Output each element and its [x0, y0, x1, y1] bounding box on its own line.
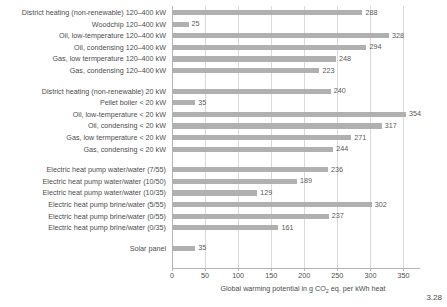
x-tick-label-300: 300 — [364, 272, 376, 279]
category-label: Oil, low-temperature < 20 kW — [73, 111, 166, 118]
plot-area: 2882532829424822324035354317271244236189… — [172, 6, 420, 268]
category-axis-labels: District heating (non-renewable) 120–400… — [0, 6, 170, 268]
bar-value-label: 271 — [351, 134, 366, 141]
x-tick-label-150: 150 — [265, 272, 277, 279]
bar-row: 129 — [172, 190, 420, 195]
bar-row: 25 — [172, 22, 420, 27]
bar — [172, 45, 366, 50]
bar-value-label: 294 — [366, 44, 381, 51]
bar-value-label: 302 — [372, 201, 387, 208]
bar-row: 271 — [172, 135, 420, 140]
x-axis-title-subscript: 2 — [326, 288, 329, 294]
bar-row: 223 — [172, 68, 420, 73]
bar — [172, 10, 362, 15]
category-label: Electric heat pump water/water (10/50) — [43, 178, 166, 185]
bar-row: 240 — [172, 89, 420, 94]
figure-global-warming-potential: District heating (non-renewable) 120–400… — [0, 0, 447, 307]
category-label: Gas, low termperature < 20 kW — [66, 134, 166, 141]
x-axis-title: Global warming potential in g CO2 eq. pe… — [172, 285, 434, 292]
bar — [172, 225, 278, 230]
bar-value-label: 354 — [406, 111, 421, 118]
bar-row: 189 — [172, 179, 420, 184]
x-tick-label-0: 0 — [170, 272, 174, 279]
bar-row: 244 — [172, 147, 420, 152]
bar — [172, 112, 406, 117]
x-axis-title-before: Global warming potential in g CO — [220, 284, 325, 293]
bar-value-label: 35 — [195, 99, 206, 106]
bar-row: 317 — [172, 123, 420, 128]
bar-row: 35 — [172, 100, 420, 105]
bar — [172, 89, 331, 94]
x-tick-label-200: 200 — [298, 272, 310, 279]
bar — [172, 100, 195, 105]
category-label: District heating (non-renewable) 20 kW — [42, 88, 166, 95]
bar-row: 236 — [172, 167, 420, 172]
bar-row: 248 — [172, 56, 420, 61]
category-label: Gas, condensing 120–400 kW — [70, 67, 166, 74]
bar — [172, 246, 195, 251]
bar — [172, 147, 333, 152]
bar-value-label: 237 — [329, 213, 344, 220]
bar — [172, 202, 372, 207]
category-label: Electric heat pump brine/water (0/35) — [48, 224, 166, 231]
bar — [172, 56, 336, 61]
bar-value-label: 244 — [333, 146, 348, 153]
bar-row: 35 — [172, 246, 420, 251]
category-label: Oil, low-temperature 120–400 kW — [59, 32, 166, 39]
bar-row: 328 — [172, 33, 420, 38]
bar-value-label: 288 — [362, 9, 377, 16]
category-label: Woodchip 120–400 kW — [92, 21, 166, 28]
bar — [172, 123, 382, 128]
category-label: Solar panel — [130, 245, 166, 252]
category-label: Gas, low termperature 120–400 kW — [53, 55, 166, 62]
bar — [172, 135, 351, 140]
bar-row: 237 — [172, 214, 420, 219]
figure-number: 3.28 — [426, 294, 442, 302]
bar-row: 288 — [172, 10, 420, 15]
bar — [172, 190, 257, 195]
bar — [172, 22, 189, 27]
category-label: Gas, condensing < 20 kW — [83, 146, 166, 153]
bar-row: 161 — [172, 225, 420, 230]
category-label: Oil, condensing 120–400 kW — [74, 44, 166, 51]
bar — [172, 179, 297, 184]
x-axis-title-after: eq. per kWh heat — [329, 284, 386, 293]
bar-row: 302 — [172, 202, 420, 207]
bar-value-label: 236 — [328, 166, 343, 173]
x-axis-ticks: 050100150200250300350 — [172, 268, 420, 282]
bar-value-label: 25 — [189, 21, 200, 28]
bar-value-label: 35 — [195, 245, 206, 252]
category-label: Oil, condensing < 20 kW — [88, 122, 166, 129]
x-tick-label-250: 250 — [331, 272, 343, 279]
bar — [172, 167, 328, 172]
bar-row: 294 — [172, 45, 420, 50]
x-tick-label-100: 100 — [232, 272, 244, 279]
x-tick-label-350: 350 — [397, 272, 409, 279]
bar-value-label: 248 — [336, 55, 351, 62]
bar-value-label: 317 — [382, 122, 397, 129]
category-label: Electric heat pump brine/water (0/55) — [48, 213, 166, 220]
category-label: Pellet boiler < 20 kW — [100, 99, 166, 106]
category-label: Electric heat pump water/water (7/55) — [47, 166, 166, 173]
bar — [172, 68, 319, 73]
bar — [172, 33, 389, 38]
bar-value-label: 328 — [389, 32, 404, 39]
bar-value-label: 223 — [319, 67, 334, 74]
bar-value-label: 240 — [331, 88, 346, 95]
category-label: Electric heat pump brine/water (5/55) — [48, 201, 166, 208]
bar-value-label: 189 — [297, 178, 312, 185]
category-label: District heating (non-renewable) 120–400… — [22, 9, 166, 16]
bar — [172, 214, 329, 219]
bar-value-label: 129 — [257, 189, 272, 196]
bars-layer: 2882532829424822324035354317271244236189… — [172, 6, 420, 268]
category-label: Electric heat pump water/water (10/35) — [43, 189, 166, 196]
bar-value-label: 161 — [278, 224, 293, 231]
x-tick-label-50: 50 — [201, 272, 209, 279]
bar-row: 354 — [172, 112, 420, 117]
